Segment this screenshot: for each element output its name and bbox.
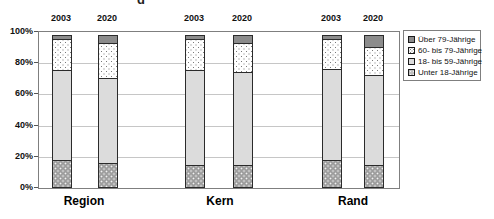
bar-kern-2003: [185, 32, 205, 188]
segment-60- bis 79-Jährige: [364, 47, 384, 77]
segment-Unter 18-Jährige: [364, 165, 384, 188]
segment-60- bis 79-Jährige: [233, 43, 253, 73]
cropped-title-fragment: g: [137, 0, 151, 4]
segment-18- bis 59-Jährige: [52, 70, 72, 160]
bar-kern-2020: [233, 32, 253, 188]
legend-label: Über 79-Jährige: [418, 35, 475, 44]
segment-Unter 18-Jährige: [233, 165, 253, 188]
plot-area: [38, 31, 400, 189]
year-label-kern-2020: 2020: [232, 13, 252, 23]
bar-region-2020: [98, 32, 118, 188]
segment-18- bis 59-Jährige: [233, 72, 253, 166]
legend-swatch-icon: [408, 47, 415, 54]
segment-Unter 18-Jährige: [98, 163, 118, 188]
bar-region-2003: [52, 32, 72, 188]
gridline: [39, 126, 399, 127]
segment-18- bis 59-Jährige: [322, 69, 342, 161]
legend-item: Unter 18-Jährige: [408, 68, 477, 77]
legend-item: 18- bis 59-Jährige: [408, 57, 477, 66]
segment-18- bis 59-Jährige: [364, 75, 384, 165]
legend-item: 60- bis 79-Jährige: [408, 46, 477, 55]
group-label-rand: Rand: [338, 194, 368, 208]
gridline: [39, 94, 399, 95]
year-label-rand-2020: 2020: [363, 13, 383, 23]
legend-label: 18- bis 59-Jährige: [418, 57, 482, 66]
group-label-region: Region: [64, 194, 105, 208]
bar-rand-2003: [322, 32, 342, 188]
group-label-kern: Kern: [206, 194, 233, 208]
segment-60- bis 79-Jährige: [185, 39, 205, 72]
legend-swatch-icon: [408, 58, 415, 65]
cropped-title-glyph: g: [137, 0, 145, 4]
y-tick-label: 80%: [1, 57, 33, 67]
y-tick-label: 20%: [1, 151, 33, 161]
gridline: [39, 157, 399, 158]
year-label-region-2020: 2020: [97, 13, 117, 23]
y-tick-label: 0%: [1, 182, 33, 192]
chart-screenshot: { "chart_data": { "type": "bar", "stacke…: [0, 0, 494, 219]
gridline: [39, 63, 399, 64]
bar-rand-2020: [364, 32, 384, 188]
y-tick-mark: [34, 93, 38, 94]
segment-Unter 18-Jährige: [52, 160, 72, 188]
y-tick-mark: [34, 156, 38, 157]
segment-18- bis 59-Jährige: [98, 78, 118, 164]
segment-Unter 18-Jährige: [322, 160, 342, 188]
year-label-kern-2003: 2003: [184, 13, 204, 23]
segment-18- bis 59-Jährige: [185, 70, 205, 165]
y-tick-label: 100%: [1, 26, 33, 36]
legend-swatch-icon: [408, 36, 415, 43]
legend-label: 60- bis 79-Jährige: [418, 46, 482, 55]
y-tick-label: 40%: [1, 120, 33, 130]
year-label-rand-2003: 2003: [321, 13, 341, 23]
legend-box: Über 79-Jährige60- bis 79-Jährige18- bis…: [403, 30, 481, 81]
segment-60- bis 79-Jährige: [52, 39, 72, 72]
y-tick-mark: [34, 125, 38, 126]
year-label-region-2003: 2003: [51, 13, 71, 23]
legend-swatch-icon: [408, 69, 415, 76]
segment-Unter 18-Jährige: [185, 165, 205, 188]
y-tick-label: 60%: [1, 88, 33, 98]
legend-item: Über 79-Jährige: [408, 35, 477, 44]
y-tick-mark: [34, 31, 38, 32]
legend-label: Unter 18-Jährige: [418, 68, 478, 77]
y-tick-mark: [34, 62, 38, 63]
y-tick-mark: [34, 187, 38, 188]
segment-60- bis 79-Jährige: [322, 39, 342, 70]
segment-60- bis 79-Jährige: [98, 43, 118, 79]
